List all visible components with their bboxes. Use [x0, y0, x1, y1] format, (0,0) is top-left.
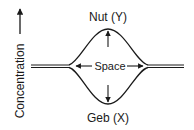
right-double-line	[148, 65, 184, 68]
concentration-diagram: Concentration Nut (Y) Geb (X) Space	[0, 0, 194, 130]
center-label: Space	[94, 60, 125, 72]
axis-label: Concentration	[13, 44, 27, 119]
top-label: Nut (Y)	[89, 10, 127, 24]
left-double-line	[31, 65, 69, 68]
bottom-label: Geb (X)	[87, 111, 129, 125]
